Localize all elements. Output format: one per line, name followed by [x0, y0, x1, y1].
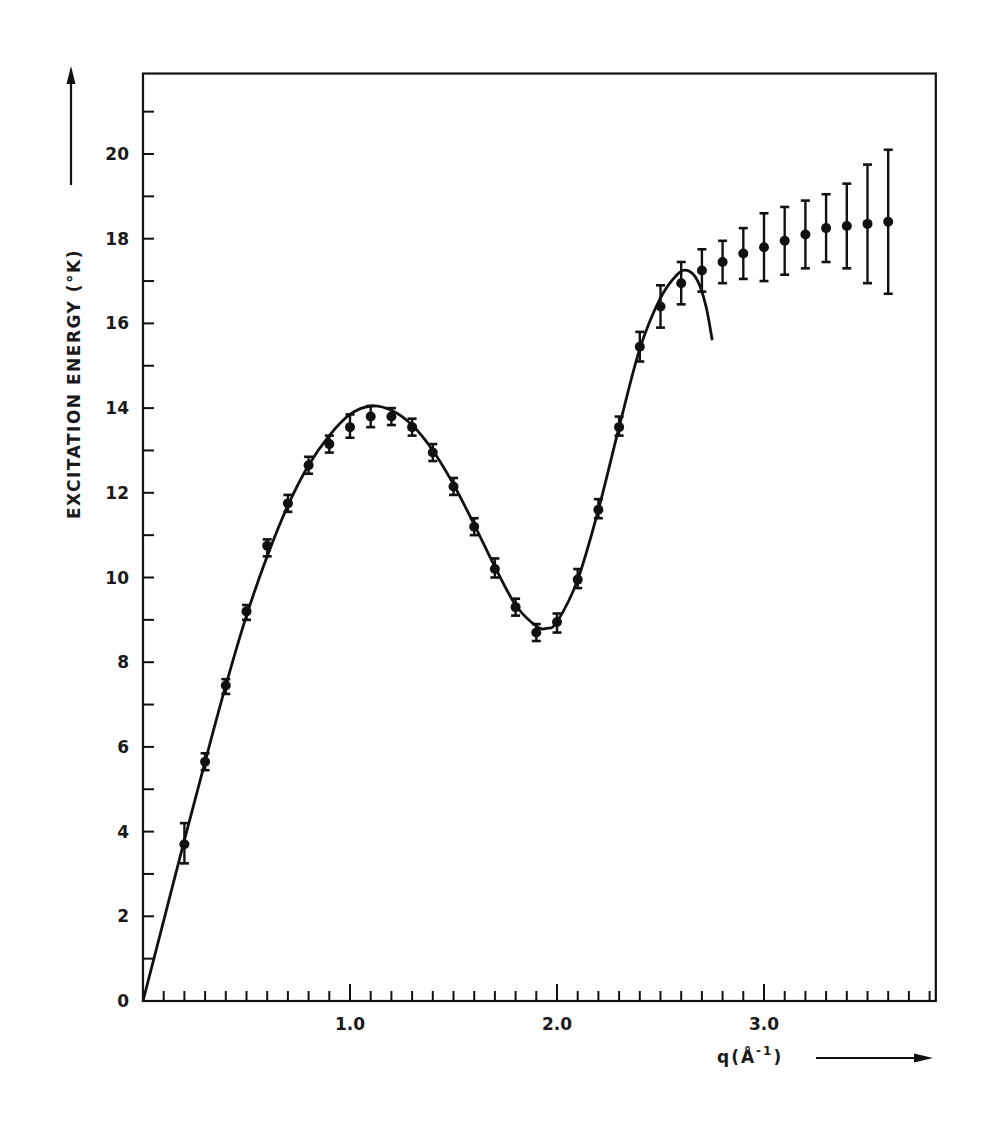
- point-marker: [283, 498, 293, 508]
- fit-curve-path: [143, 270, 712, 1001]
- data-point: [759, 213, 769, 281]
- data-point: [883, 150, 893, 294]
- plot-frame: [143, 74, 936, 1001]
- data-point: [366, 406, 376, 427]
- data-point: [676, 262, 686, 304]
- point-marker: [200, 757, 210, 767]
- point-marker: [821, 223, 831, 233]
- point-marker: [863, 219, 873, 229]
- data-point: [821, 194, 831, 262]
- point-marker: [304, 460, 314, 470]
- point-marker: [573, 575, 583, 585]
- point-marker: [221, 680, 231, 690]
- point-marker: [800, 229, 810, 239]
- x-axis-title: q(Å-1): [717, 1044, 783, 1067]
- point-marker: [552, 617, 562, 627]
- point-marker: [449, 481, 459, 491]
- point-marker: [490, 564, 500, 574]
- y-tick-label: 0: [117, 991, 129, 1011]
- y-tick-label: 4: [117, 822, 129, 842]
- point-marker: [531, 628, 541, 638]
- x-axis-arrow-icon: [914, 1054, 933, 1063]
- point-marker: [366, 412, 376, 422]
- x-axis-title-close: ): [773, 1047, 783, 1067]
- point-marker: [242, 606, 252, 616]
- point-marker: [593, 505, 603, 515]
- data-point: [531, 624, 541, 641]
- point-marker: [469, 522, 479, 532]
- point-marker: [386, 412, 396, 422]
- data-point: [800, 201, 810, 269]
- x-axis-title-sup: -1: [756, 1044, 773, 1058]
- y-tick-label: 2: [117, 906, 129, 926]
- point-marker: [738, 249, 748, 259]
- point-marker: [676, 278, 686, 288]
- point-marker: [428, 448, 438, 458]
- y-tick-label: 20: [105, 144, 129, 164]
- x-tick-label: 2.0: [542, 1014, 572, 1034]
- y-tick-label: 10: [105, 568, 129, 588]
- data-point: [863, 165, 873, 284]
- point-marker: [718, 257, 728, 267]
- y-axis-arrow-icon: [67, 66, 76, 84]
- point-marker: [407, 422, 417, 432]
- point-marker: [780, 236, 790, 246]
- data-point: [200, 753, 210, 770]
- point-marker: [511, 602, 521, 612]
- x-tick-label: 1.0: [335, 1014, 365, 1034]
- y-tick-label: 8: [117, 652, 129, 672]
- x-axis-ticks: 1.02.03.0: [164, 984, 930, 1034]
- point-marker: [656, 301, 666, 311]
- data-point: [221, 679, 231, 694]
- point-marker: [324, 439, 334, 449]
- y-tick-label: 14: [105, 398, 129, 418]
- y-axis-title-group: EXCITATION ENERGY (°K): [64, 66, 84, 519]
- y-tick-label: 12: [105, 483, 129, 503]
- point-marker: [842, 221, 852, 231]
- data-point: [614, 417, 624, 436]
- dispersion-chart: 02468101214161820 1.02.03.0 EXCITATION E…: [0, 0, 983, 1124]
- y-tick-label: 6: [117, 737, 129, 757]
- point-marker: [179, 839, 189, 849]
- y-tick-label: 18: [105, 229, 129, 249]
- point-marker: [262, 541, 272, 551]
- fit-curve: [143, 270, 712, 1001]
- data-point: [262, 539, 272, 556]
- y-axis-ticks: 02468101214161820: [105, 112, 154, 1011]
- data-point: [593, 499, 603, 518]
- point-marker: [697, 265, 707, 275]
- x-tick-label: 3.0: [749, 1014, 779, 1034]
- plot-border: [143, 74, 936, 1001]
- x-axis-title-base: q(Å: [717, 1045, 756, 1067]
- y-tick-label: 16: [105, 313, 129, 333]
- data-point: [718, 241, 728, 283]
- data-point: [780, 207, 790, 275]
- x-axis-title-group: q(Å-1): [717, 1044, 933, 1067]
- data-point: [842, 184, 852, 269]
- point-marker: [345, 422, 355, 432]
- point-marker: [614, 422, 624, 432]
- point-marker: [635, 342, 645, 352]
- point-marker: [883, 217, 893, 227]
- data-point: [738, 228, 748, 279]
- point-marker: [759, 242, 769, 252]
- data-points: [179, 150, 893, 864]
- y-axis-title: EXCITATION ENERGY (°K): [64, 249, 84, 519]
